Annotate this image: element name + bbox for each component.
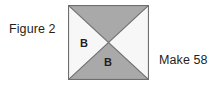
label-left-triangle: B [80,38,88,49]
divided-square-diagram: B B [68,5,149,80]
figure-canvas: Figure 2 B B Make 58 [0,0,220,86]
instruction-text: Make 58 [159,53,208,67]
label-bottom-triangle: B [104,57,112,68]
figure-caption: Figure 2 [9,22,56,36]
